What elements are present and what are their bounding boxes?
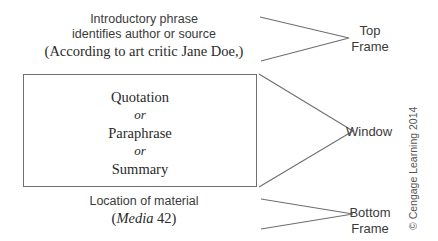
window-item-or-1: or	[23, 106, 257, 124]
source-title: Media	[116, 210, 153, 226]
intro-line-2: identifies author or source	[30, 27, 258, 42]
location-example: (Media 42)	[30, 209, 258, 227]
page-number: 42)	[153, 210, 176, 226]
window-item-paraphrase: Paraphrase	[23, 124, 257, 142]
intro-line-1: Introductory phrase	[30, 12, 258, 27]
label-top-line-1: Top	[340, 23, 400, 39]
location-line-1: Location of material	[30, 194, 258, 209]
window-item-quotation: Quotation	[23, 88, 257, 106]
label-bottom-frame: Bottom Frame	[340, 205, 400, 237]
window-item-or-2: or	[23, 142, 257, 160]
intro-example: (According to art critic Jane Doe,)	[30, 42, 258, 60]
window-content: Quotation or Paraphrase or Summary	[23, 88, 257, 178]
introductory-phrase-block: Introductory phrase identifies author or…	[30, 12, 258, 60]
label-bottom-line-2: Frame	[340, 221, 400, 237]
copyright-notice: © Cengage Learning 2014	[407, 107, 419, 230]
top-frame-chevron	[260, 17, 349, 61]
location-block: Location of material (Media 42)	[30, 194, 258, 227]
label-window: Window	[346, 124, 416, 140]
label-top-line-2: Frame	[340, 39, 400, 55]
label-top-frame: Top Frame	[340, 23, 400, 55]
label-bottom-line-1: Bottom	[340, 205, 400, 221]
window-chevron	[259, 74, 353, 187]
window-item-summary: Summary	[23, 160, 257, 178]
